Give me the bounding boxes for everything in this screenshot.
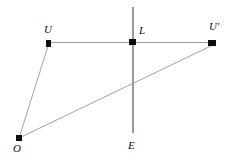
point-label-l: L xyxy=(139,25,145,36)
point-marker-u-prime xyxy=(208,40,216,46)
point-label-u: U xyxy=(44,24,52,35)
point-marker-u xyxy=(46,40,51,47)
point-marker-l xyxy=(129,39,136,45)
geometry-canvas xyxy=(0,0,236,161)
geometry-figure: U L U′ O E xyxy=(0,0,236,161)
point-label-o: O xyxy=(13,143,21,154)
point-label-e: E xyxy=(128,140,135,151)
point-marker-o xyxy=(16,135,22,141)
segment-ray-o-u xyxy=(19,43,49,138)
segment-ray-o-uprime xyxy=(19,44,215,138)
point-label-u-prime: U′ xyxy=(209,21,219,32)
